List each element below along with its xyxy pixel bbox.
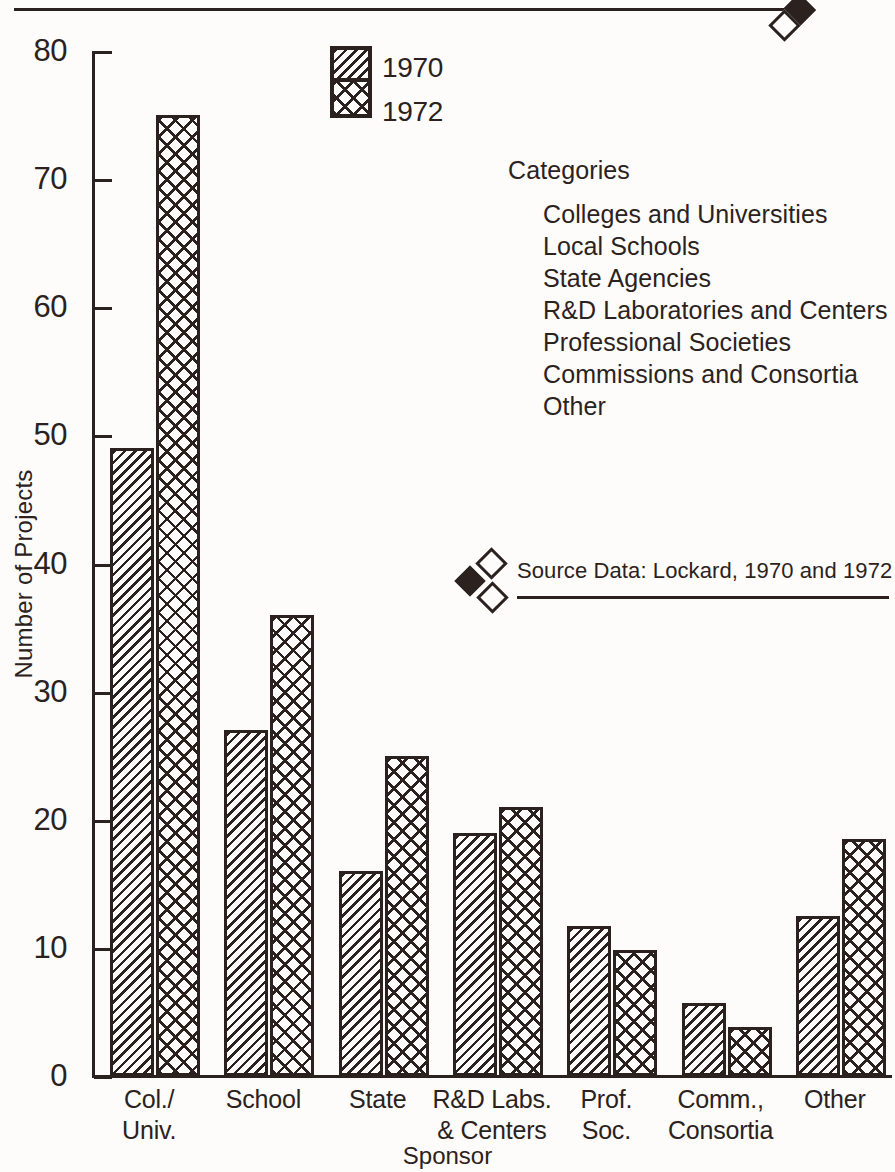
x-axis-category-label: Other	[766, 1084, 895, 1115]
bar-1970-4	[567, 926, 611, 1076]
y-axis-tick-label: 80	[34, 35, 67, 66]
chart-canvas: 80706050403020100 Number of Projects Spo…	[0, 0, 895, 1172]
source-note-rule	[517, 596, 889, 599]
y-axis-title: Number of Projects	[10, 374, 38, 774]
y-axis-tick-label: 20	[34, 804, 67, 835]
y-axis-tick-label: 0	[50, 1060, 67, 1091]
bar-1972-4	[613, 950, 657, 1076]
legend-label-1970: 1970	[382, 54, 443, 82]
source-note: Source Data: Lockard, 1970 and 1972	[455, 548, 895, 618]
legend-swatch-box	[330, 46, 372, 118]
categories-list-item: Commissions and Consortia	[543, 358, 888, 390]
source-note-text: Source Data: Lockard, 1970 and 1972	[517, 558, 892, 584]
bar-1970-2	[339, 871, 383, 1076]
bar-1970-1	[224, 730, 268, 1076]
x-axis-category-label-line: Other	[766, 1084, 895, 1115]
x-axis-category-label-line: Consortia	[651, 1115, 789, 1146]
categories-list: Colleges and UniversitiesLocal SchoolsSt…	[508, 198, 888, 422]
bar-1970-6	[796, 916, 840, 1076]
bar-1972-0	[156, 115, 200, 1076]
top-rule	[14, 8, 804, 11]
bar-1970-3	[453, 833, 497, 1076]
legend-swatch-1972	[334, 82, 368, 114]
bar-1972-3	[499, 807, 543, 1076]
y-axis-tick-label: 10	[34, 932, 67, 963]
y-axis-tick-label: 70	[34, 163, 67, 194]
bar-1972-5	[728, 1027, 772, 1076]
bar-1972-1	[270, 615, 314, 1076]
categories-heading: Categories	[508, 156, 888, 185]
categories-list-item: R&D Laboratories and Centers	[543, 294, 888, 326]
categories-list-item: Other	[543, 390, 888, 422]
categories-list-item: Local Schools	[543, 230, 888, 262]
categories-panel: Categories Colleges and UniversitiesLoca…	[508, 156, 888, 422]
y-axis-tick-label: 30	[34, 676, 67, 707]
legend-label-1972: 1972	[382, 98, 443, 126]
diamond-outline-icon	[476, 581, 509, 614]
x-axis-title: Sponsor	[0, 1142, 895, 1170]
categories-list-item: State Agencies	[543, 262, 888, 294]
bar-1970-5	[682, 1003, 726, 1076]
y-axis-tick-label: 50	[34, 419, 67, 450]
legend-swatch-1970	[334, 50, 368, 82]
bar-1970-0	[110, 448, 154, 1076]
categories-list-item: Colleges and Universities	[543, 198, 888, 230]
bar-1972-2	[385, 756, 429, 1076]
x-axis-category-label-line: Univ.	[80, 1115, 218, 1146]
y-axis-tick-label: 40	[34, 548, 67, 579]
bar-1972-6	[842, 839, 886, 1076]
y-axis-tick-label: 60	[34, 291, 67, 322]
categories-list-item: Professional Societies	[543, 326, 888, 358]
